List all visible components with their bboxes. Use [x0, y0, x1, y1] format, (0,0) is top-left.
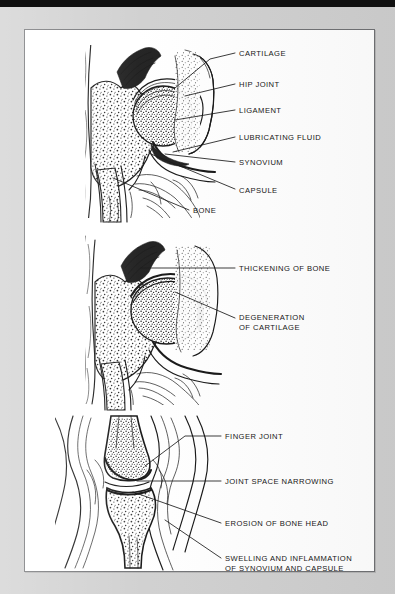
figure-normal-hip [66, 40, 235, 222]
label-bone: BONE [193, 206, 216, 215]
acetabular-rim [117, 47, 161, 88]
label-thickening-of-bone: THICKENING OF BONE [239, 264, 330, 273]
label-swelling-line1: SWELLING AND INFLAMMATION [225, 554, 352, 563]
label-cartilage: CARTILAGE [239, 49, 286, 58]
narrowed-joint-space [105, 482, 149, 487]
label-swelling-line2: OF SYNOVIUM AND CAPSULE [225, 564, 344, 571]
top-black-strip [0, 0, 395, 7]
page-margin: CARTILAGE HIP JOINT LIGAMENT LUBRICATING… [0, 7, 395, 594]
muscle-striations-oa [131, 372, 201, 416]
label-capsule: CAPSULE [239, 186, 278, 195]
figure-rheumatoid-finger [35, 416, 221, 570]
muscle-striations [130, 174, 201, 222]
label-synovium: SYNOVIUM [239, 158, 283, 167]
label-ligament: LIGAMENT [239, 106, 281, 115]
label-degeneration-line2: OF CARTILAGE [239, 323, 300, 332]
labels-panel-3: FINGER JOINT JOINT SPACE NARROWING EROSI… [225, 432, 352, 571]
figure-osteoarthritic-hip [70, 236, 235, 416]
label-joint-space-narrowing: JOINT SPACE NARROWING [225, 477, 334, 486]
plate-svg: CARTILAGE HIP JOINT LIGAMENT LUBRICATING… [25, 30, 374, 571]
illustration-plate: CARTILAGE HIP JOINT LIGAMENT LUBRICATING… [24, 29, 375, 572]
label-degeneration-line1: DEGENERATION [239, 313, 305, 322]
label-erosion-of-bone-head: EROSION OF BONE HEAD [225, 519, 329, 528]
label-hip-joint: HIP JOINT [239, 80, 280, 89]
labels-panel-2: THICKENING OF BONE DEGENERATION OF CARTI… [239, 264, 330, 332]
label-finger-joint: FINGER JOINT [225, 432, 283, 441]
label-lubricating-fluid: LUBRICATING FLUID [239, 133, 321, 142]
